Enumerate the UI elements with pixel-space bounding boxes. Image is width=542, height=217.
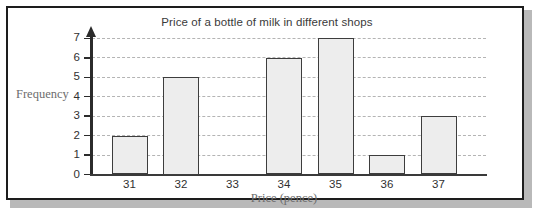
bar-37 [421, 116, 457, 174]
y-axis-tick-label: 7 [64, 32, 80, 43]
x-axis-tick-label: 35 [316, 178, 356, 190]
y-axis-tick-label: 5 [64, 71, 80, 82]
y-axis-tick-label: 6 [64, 52, 80, 63]
y-axis-tick-label: 3 [64, 110, 80, 121]
y-axis-line [90, 34, 93, 175]
bar-34 [266, 58, 302, 175]
x-axis-tick-label: 36 [367, 178, 407, 190]
bar-36 [369, 155, 405, 174]
figure-frame: Price of a bottle of milk in different s… [6, 6, 524, 200]
x-axis-tick-label: 37 [419, 178, 459, 190]
y-axis-tick-label: 1 [64, 149, 80, 160]
bar-32 [163, 77, 199, 174]
x-axis-tick-label: 31 [110, 178, 150, 190]
y-axis-arrow-icon [86, 26, 96, 37]
bar-35 [318, 38, 354, 174]
x-axis-tick-label: 34 [264, 178, 304, 190]
bar-31 [112, 136, 148, 175]
figure-root: Price of a bottle of milk in different s… [0, 0, 542, 217]
y-axis-tick-label: 2 [64, 130, 80, 141]
bar-chart-plot: Price of a bottle of milk in different s… [8, 8, 526, 202]
x-axis-title: Price (pence) [112, 191, 457, 206]
y-axis-tick-label: 0 [64, 169, 80, 180]
x-axis-tick-label: 32 [161, 178, 201, 190]
gridline [92, 38, 486, 39]
y-axis-tick-label: 4 [64, 91, 80, 102]
x-axis-tick-label: 33 [213, 178, 253, 190]
